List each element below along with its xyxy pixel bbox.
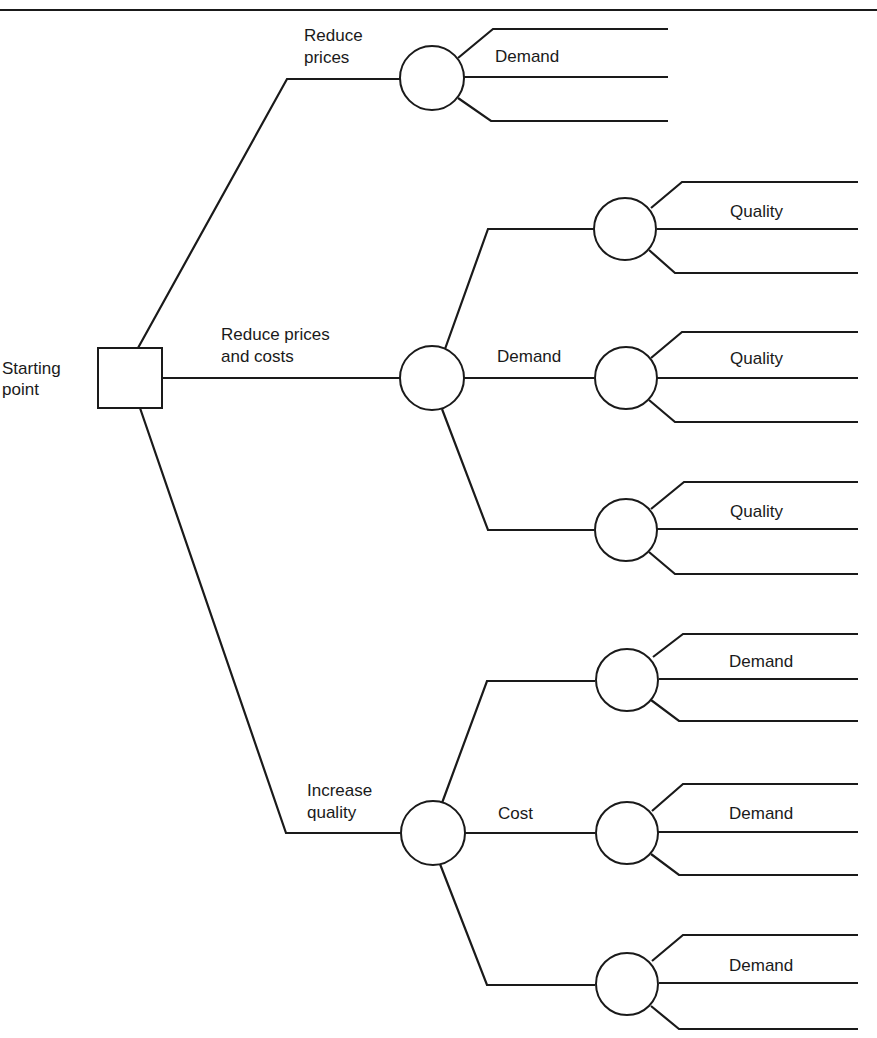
chance-label-demand: Demand bbox=[497, 347, 561, 366]
chance-label-quality: Quality bbox=[730, 502, 783, 521]
outcome-branch bbox=[651, 854, 858, 875]
outcome-branch bbox=[458, 29, 668, 58]
branch-increase-quality bbox=[140, 408, 401, 833]
chance-label-cost: Cost bbox=[498, 804, 533, 823]
root-label-line-2: point bbox=[2, 380, 39, 399]
quality-group-2: Quality bbox=[595, 332, 858, 422]
decision-label-2-line-2: and costs bbox=[221, 347, 294, 366]
decision-label-3-line-2: quality bbox=[307, 803, 357, 822]
outcome-branch bbox=[649, 552, 858, 574]
outcome-branch bbox=[458, 98, 668, 121]
chance-node-demand bbox=[596, 649, 658, 711]
chance-group-increase-quality: Cost Demand Demand Demand bbox=[401, 634, 858, 1029]
chance-node-demand bbox=[400, 46, 464, 110]
chance-node-quality bbox=[595, 347, 657, 409]
cost-branch-upper bbox=[442, 681, 595, 803]
decision-node-square bbox=[98, 348, 162, 408]
outcome-branch bbox=[649, 400, 858, 422]
decision-label-2-line-1: Reduce prices bbox=[221, 325, 330, 344]
decision-label-1-line-2: prices bbox=[304, 48, 349, 67]
chance-group-reduce-prices: Demand bbox=[400, 29, 668, 121]
chance-group-reduce-prices-and-costs: Demand Quality Quality Quality bbox=[400, 182, 858, 574]
outcome-branch bbox=[651, 1006, 858, 1029]
root-label-line-1: Starting bbox=[2, 359, 61, 378]
demand-group-1: Demand bbox=[596, 634, 858, 721]
chance-label-demand: Demand bbox=[729, 804, 793, 823]
chance-label-demand: Demand bbox=[495, 47, 559, 66]
demand-branch-upper bbox=[445, 229, 594, 349]
chance-node-quality bbox=[595, 499, 657, 561]
cost-branch-lower bbox=[440, 864, 595, 985]
branch-reduce-prices bbox=[138, 79, 401, 348]
chance-label-quality: Quality bbox=[730, 202, 783, 221]
root-label: Starting point bbox=[2, 359, 61, 399]
quality-group-1: Quality bbox=[594, 182, 858, 273]
demand-group-2: Demand bbox=[596, 784, 858, 875]
decision-tree-diagram: Starting point Reduce prices Reduce pric… bbox=[0, 0, 877, 1038]
quality-group-3: Quality bbox=[595, 482, 858, 574]
demand-group-3: Demand bbox=[596, 935, 858, 1029]
decision-label-1-line-1: Reduce bbox=[304, 26, 363, 45]
outcome-branch bbox=[651, 700, 858, 721]
chance-node-quality bbox=[594, 198, 656, 260]
decision-label-3-line-1: Increase bbox=[307, 781, 372, 800]
chance-node-demand bbox=[596, 802, 658, 864]
chance-node-demand bbox=[400, 346, 464, 410]
outcome-branch bbox=[649, 250, 858, 273]
chance-label-demand: Demand bbox=[729, 652, 793, 671]
demand-branch-lower bbox=[442, 409, 594, 530]
chance-label-quality: Quality bbox=[730, 349, 783, 368]
chance-label-demand: Demand bbox=[729, 956, 793, 975]
chance-node-demand bbox=[596, 953, 658, 1015]
chance-node-cost bbox=[401, 801, 465, 865]
decision-branches bbox=[138, 79, 401, 833]
